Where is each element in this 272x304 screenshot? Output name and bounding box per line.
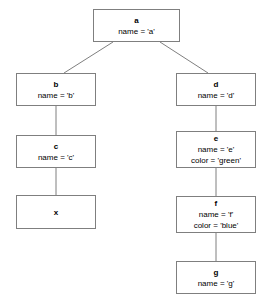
node-b-title: b bbox=[54, 79, 59, 90]
node-x-title: x bbox=[54, 207, 59, 218]
node-g-title: g bbox=[214, 267, 219, 278]
node-x[interactable]: x bbox=[16, 195, 96, 229]
node-d[interactable]: dname = 'd' bbox=[176, 73, 256, 106]
node-e-title: e bbox=[214, 133, 219, 144]
node-e[interactable]: ename = 'e'color = 'green' bbox=[176, 131, 256, 168]
node-c[interactable]: cname = 'c' bbox=[16, 135, 96, 168]
node-c-attr-0: name = 'c' bbox=[38, 152, 74, 163]
node-g[interactable]: gname = 'g' bbox=[176, 261, 256, 294]
node-a[interactable]: aname = 'a' bbox=[93, 9, 180, 42]
node-g-attr-0: name = 'g' bbox=[198, 278, 235, 289]
node-a-attr-0: name = 'a' bbox=[118, 26, 155, 37]
node-e-attr-0: name = 'e' bbox=[198, 144, 235, 155]
node-e-attr-1: color = 'green' bbox=[191, 155, 241, 166]
edge-a-to-d bbox=[160, 42, 208, 73]
node-a-title: a bbox=[134, 15, 139, 26]
diagram-canvas: aname = 'a'bname = 'b'dname = 'd'cname =… bbox=[0, 0, 272, 304]
node-b-attr-0: name = 'b' bbox=[38, 90, 75, 101]
node-f-title: f bbox=[215, 198, 218, 209]
node-c-title: c bbox=[54, 141, 59, 152]
node-b[interactable]: bname = 'b' bbox=[16, 73, 96, 106]
node-f-attr-0: name = 'f' bbox=[199, 209, 233, 220]
node-d-attr-0: name = 'd' bbox=[198, 90, 235, 101]
edge-a-to-b bbox=[64, 42, 113, 73]
node-d-title: d bbox=[214, 79, 219, 90]
node-f-attr-1: color = 'blue' bbox=[194, 220, 239, 231]
node-f[interactable]: fname = 'f'color = 'blue' bbox=[176, 196, 256, 233]
